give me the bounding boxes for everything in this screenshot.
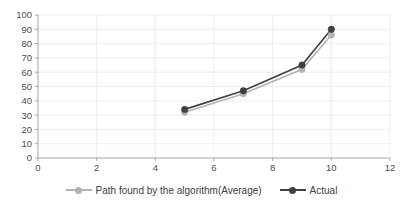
svg-text:2: 2 [94, 162, 99, 173]
legend-item-actual[interactable]: Actual [280, 185, 338, 196]
chart-canvas: 0102030405060708090100 024681012 [0, 0, 403, 175]
y-tick-labels: 0102030405060708090100 [16, 9, 32, 163]
svg-text:20: 20 [21, 124, 32, 135]
svg-text:50: 50 [21, 81, 32, 92]
legend-marker-icon-actual [280, 185, 306, 195]
y-axis [35, 15, 38, 158]
svg-text:0: 0 [35, 162, 40, 173]
svg-text:10: 10 [326, 162, 337, 173]
svg-text:10: 10 [21, 138, 32, 149]
legend-marker-icon-algo [66, 185, 92, 195]
svg-text:12: 12 [385, 162, 396, 173]
svg-text:60: 60 [21, 67, 32, 78]
chart-legend: Path found by the algorithm(Average) Act… [0, 176, 403, 204]
svg-text:6: 6 [211, 162, 216, 173]
x-tick-labels: 024681012 [35, 162, 395, 173]
series-actual-line [185, 29, 332, 109]
gridlines [38, 15, 390, 158]
svg-text:4: 4 [153, 162, 158, 173]
svg-text:40: 40 [21, 95, 32, 106]
x-axis [38, 158, 390, 161]
plot-area: 0102030405060708090100 024681012 [0, 0, 403, 175]
svg-text:80: 80 [21, 38, 32, 49]
legend-label-algo: Path found by the algorithm(Average) [96, 185, 262, 196]
legend-label-actual: Actual [310, 185, 338, 196]
svg-text:8: 8 [270, 162, 275, 173]
svg-text:0: 0 [27, 152, 32, 163]
svg-text:70: 70 [21, 52, 32, 63]
svg-text:90: 90 [21, 24, 32, 35]
line-chart: 0102030405060708090100 024681012 Path fo… [0, 0, 403, 204]
svg-text:30: 30 [21, 110, 32, 121]
series-actual-markers [181, 26, 334, 112]
svg-text:100: 100 [16, 9, 32, 20]
legend-item-algo[interactable]: Path found by the algorithm(Average) [66, 185, 262, 196]
